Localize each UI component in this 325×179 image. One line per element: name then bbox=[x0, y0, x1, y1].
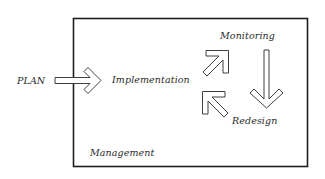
implementation-label: Implementation bbox=[112, 75, 190, 85]
arrow-down-icon bbox=[250, 50, 283, 108]
redesign-label: Redesign bbox=[232, 116, 277, 126]
arrow-up-left-icon bbox=[203, 92, 229, 118]
diagram-canvas: PLAN Implementation Monitoring Redesign … bbox=[0, 0, 325, 179]
arrow-up-right-icon bbox=[203, 51, 229, 77]
monitoring-label: Monitoring bbox=[220, 31, 275, 41]
diagram-graphics bbox=[0, 0, 325, 179]
plan-label: PLAN bbox=[17, 76, 45, 86]
management-label: Management bbox=[90, 148, 154, 158]
arrow-right-icon bbox=[55, 68, 101, 94]
